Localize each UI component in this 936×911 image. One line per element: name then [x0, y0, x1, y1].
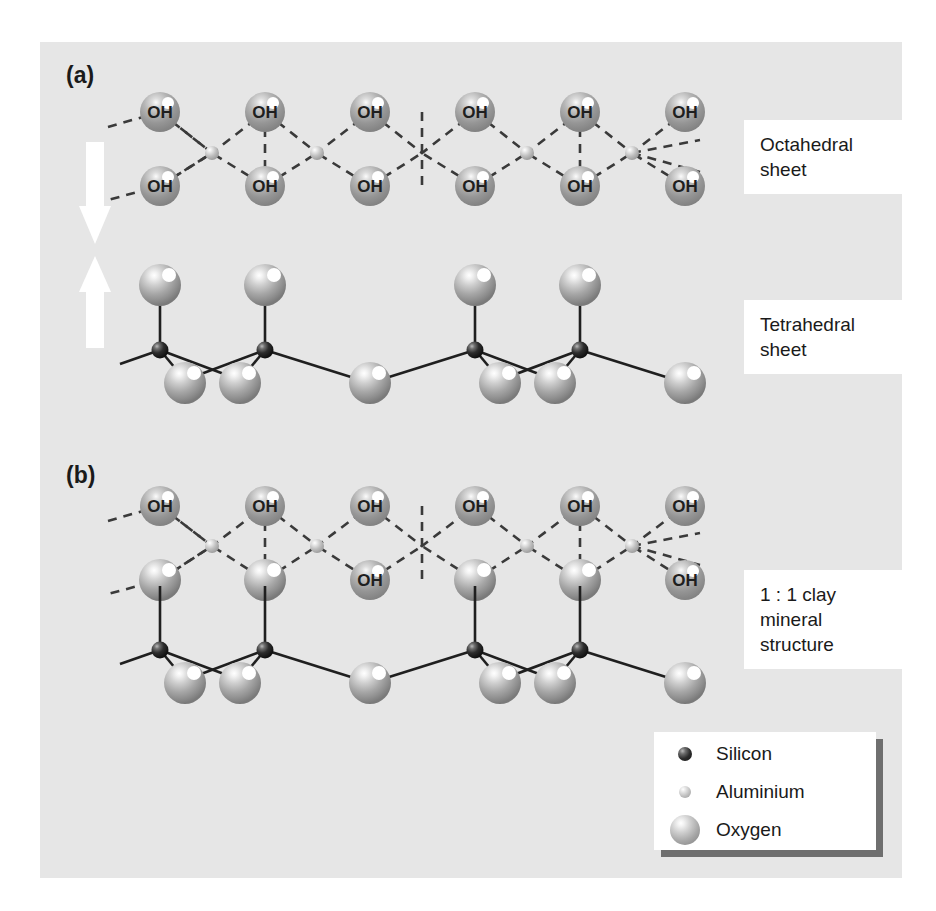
oh-sphere: OH [560, 92, 600, 132]
aluminium-sphere-icon [654, 786, 716, 798]
octahedral-bonds-b [108, 506, 700, 594]
silicon-sphere-icon [654, 747, 716, 761]
oxygen-sphere [219, 662, 261, 704]
panel-a-octahedral-sheet: OH OH OH OH OH OH OH OH OH OH OH OH [108, 92, 705, 206]
part-b-label: (b) [66, 462, 95, 489]
oh-sphere: OH [140, 92, 180, 132]
legend-item-oxygen: Oxygen [654, 811, 876, 849]
oh-sphere: OH [350, 92, 390, 132]
part-a-label: (a) [66, 62, 94, 89]
oxygen-sphere [244, 264, 286, 306]
legend-label-silicon: Silicon [716, 743, 772, 765]
oxygen-sphere [559, 264, 601, 306]
oh-sphere: OH [245, 166, 285, 206]
oh-sphere: OH [455, 166, 495, 206]
basal-oxygen-row-a [164, 362, 706, 404]
oxygen-sphere [534, 362, 576, 404]
oh-sphere: OH [350, 486, 390, 526]
oh-sphere: OH [665, 560, 705, 600]
legend-label-oxygen: Oxygen [716, 819, 781, 841]
up-arrow [79, 256, 111, 348]
oxygen-sphere [219, 362, 261, 404]
down-arrow [79, 142, 111, 244]
callout-octahedral-sheet: Octahedral sheet [744, 120, 902, 194]
callout-clay-mineral-structure: 1 : 1 clay mineral structure [744, 570, 902, 669]
basal-oxygen-row-b [164, 662, 706, 704]
panel-a-tetrahedral-sheet [120, 264, 706, 404]
oh-sphere: OH [350, 560, 390, 600]
tetrahedral-bonds-b [120, 586, 685, 683]
oxygen-sphere [164, 662, 206, 704]
figure-root: OH OH OH OH OH OH OH OH OH OH OH OH [0, 0, 936, 911]
panel-b-tetrahedral-sheet [120, 586, 706, 704]
oxygen-sphere [479, 362, 521, 404]
oxygen-sphere [664, 362, 706, 404]
oh-sphere: OH [140, 166, 180, 206]
oxygen-sphere [349, 362, 391, 404]
oh-sphere: OH [665, 166, 705, 206]
oh-sphere: OH [140, 486, 180, 526]
shared-oxygen-row-b: OH OH [139, 559, 705, 601]
apical-oxygen-row-a [139, 264, 601, 306]
legend-item-silicon: Silicon [654, 735, 876, 773]
oxygen-sphere-icon [654, 815, 716, 845]
legend-box: Silicon Aluminium Oxygen [654, 732, 876, 850]
oxygen-sphere [139, 264, 181, 306]
silicon-atoms-b [152, 642, 589, 659]
oh-sphere: OH [665, 486, 705, 526]
oh-sphere: OH [245, 92, 285, 132]
oxygen-sphere [349, 662, 391, 704]
oxygen-sphere [164, 362, 206, 404]
oh-sphere: OH [245, 486, 285, 526]
oh-sphere: OH [665, 92, 705, 132]
legend-item-aluminium: Aluminium [654, 773, 876, 811]
silicon-atoms-a [152, 342, 589, 359]
oxygen-sphere [479, 662, 521, 704]
oxygen-sphere [664, 662, 706, 704]
sheet-direction-arrows [79, 142, 111, 348]
oh-sphere: OH [350, 166, 390, 206]
oxygen-sphere [454, 264, 496, 306]
octahedral-bonds-a [108, 112, 700, 200]
oxygen-sphere [534, 662, 576, 704]
oh-sphere: OH [560, 486, 600, 526]
oh-sphere: OH [455, 486, 495, 526]
callout-tetrahedral-sheet: Tetrahedral sheet [744, 300, 902, 374]
hydroxyl-row-bottom-a: OH OH OH OH OH OH [140, 166, 705, 206]
panel-b-octahedral-sheet: OH OH OH OH OH OH OH OH [108, 486, 705, 601]
oh-sphere: OH [455, 92, 495, 132]
oh-sphere: OH [560, 166, 600, 206]
legend-label-aluminium: Aluminium [716, 781, 805, 803]
tetrahedral-bonds-a [120, 290, 685, 383]
